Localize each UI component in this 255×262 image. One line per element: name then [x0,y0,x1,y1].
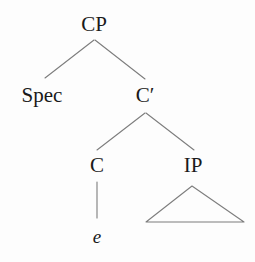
branch-cbar-ip [146,113,194,150]
syntax-tree-figure: CP Spec C′ C IP e [0,0,255,262]
triangle-group [146,186,244,222]
node-label-ip: IP [184,155,203,176]
branch-group [45,40,194,218]
node-label-c: C [90,155,104,176]
node-label-cp: CP [81,14,107,35]
node-label-spec: Spec [22,85,63,106]
tree-edges-layer [0,0,255,262]
branch-cp-spec [45,40,94,78]
node-label-c-bar: C′ [136,85,155,106]
ip-triangle [146,186,244,222]
node-label-empty-category: e [93,226,101,247]
branch-cp-cbar [95,40,145,79]
branch-cbar-c [97,113,145,150]
